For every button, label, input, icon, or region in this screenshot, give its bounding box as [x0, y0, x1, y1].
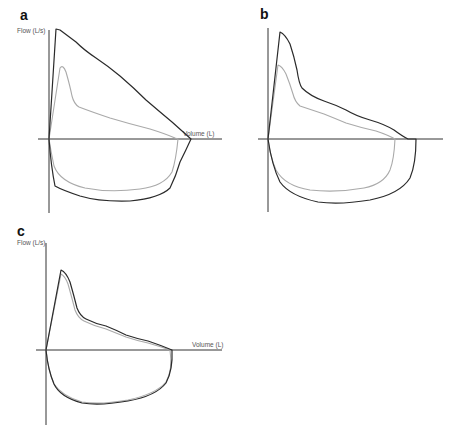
panel-a: a Flow (L/s) Volume (L): [17, 7, 222, 213]
panel-b: b: [258, 6, 443, 212]
panel-a-label: a: [20, 7, 28, 23]
panel-c: c Flow (L/s) Volume (L): [17, 223, 223, 425]
panel-b-black-loop: [268, 32, 416, 203]
flow-volume-figure: a Flow (L/s) Volume (L) b c Flow (L/s) V…: [0, 0, 456, 440]
panel-c-gray-loop: [46, 274, 171, 403]
panel-c-black-loop: [46, 270, 172, 404]
panel-b-label: b: [260, 6, 269, 22]
panel-c-y-axis-label: Flow (L/s): [17, 239, 46, 247]
panel-a-y-axis-label: Flow (L/s): [17, 27, 46, 35]
panel-c-label: c: [17, 223, 25, 239]
panel-b-gray-loop: [268, 65, 395, 191]
panel-c-x-axis-label: Volume (L): [192, 341, 223, 349]
panel-a-gray-loop: [49, 67, 178, 191]
